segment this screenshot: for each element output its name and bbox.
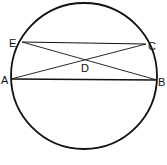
geometry-figure: E C A B D Fig. 10 [0, 0, 167, 165]
chord-ec [22, 42, 146, 44]
label-b: B [158, 76, 165, 88]
chord-ac [11, 44, 146, 79]
chord-eb [22, 42, 157, 80]
label-d: D [81, 62, 89, 74]
chord-ab [11, 79, 157, 80]
label-a: A [1, 74, 9, 86]
label-e: E [9, 37, 16, 49]
circle [11, 3, 157, 149]
figure-caption: Fig. 10 [70, 163, 105, 165]
label-c: C [148, 40, 156, 52]
